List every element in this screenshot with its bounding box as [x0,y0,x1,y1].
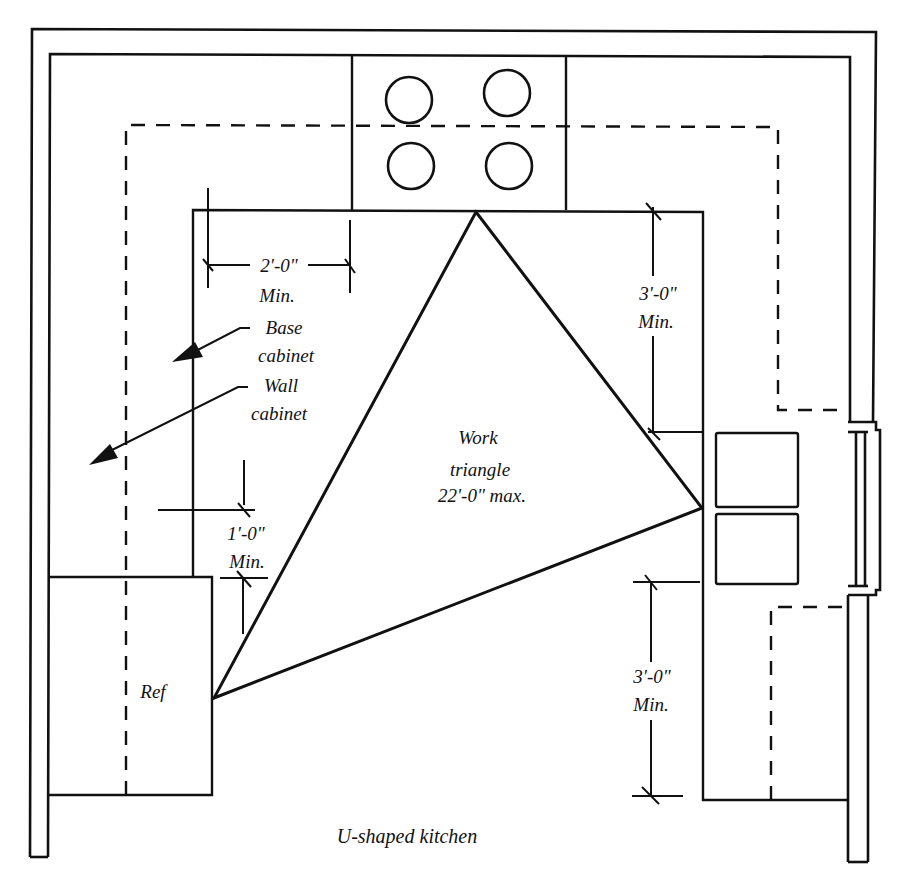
outer-wall-line [30,29,876,857]
refrigerator-label: Ref [139,681,168,702]
sink-basin-icon [716,514,798,584]
work-triangle-label-3: 22'-0" max. [438,485,526,506]
diagram-caption: U-shaped kitchen [337,825,478,848]
inner-wall-line [48,54,850,857]
dimension-sink-clearance-upper: 3'-0" Min. [637,203,703,440]
dimension-range-clearance: 2'-0" Min. [203,188,355,306]
sink-basin-icon [716,433,798,507]
dimension-qualifier: Min. [258,285,294,306]
dimension-value: 1'-0" [227,523,265,544]
dimension-value: 2'-0" [260,255,298,276]
dimension-qualifier: Min. [228,551,264,572]
u-shaped-kitchen-plan: Ref Work triangle 22'-0" max. 2'-0" Min.… [0,0,899,893]
base-cabinet-label-2: cabinet [258,345,315,366]
work-triangle-label-1: Work [458,427,498,448]
range [352,56,566,210]
burner-icon [386,77,432,123]
window [848,422,880,595]
wall-cabinet-callout: Wall cabinet [89,375,308,465]
wall-cabinet-label-2: cabinet [251,403,308,424]
wall-cabinet-label-1: Wall [264,375,298,396]
outer-walls [30,29,876,862]
refrigerator: Ref [48,577,212,795]
dimension-sink-clearance-lower: 3'-0" Min. [632,575,700,804]
burner-icon [486,143,532,189]
base-cabinet-label-1: Base [266,317,303,338]
work-triangle-label-2: triangle [450,459,510,480]
dimension-value: 3'-0" [632,666,671,687]
dimension-qualifier: Min. [637,311,673,332]
arrow-icon [89,444,118,465]
sink [716,433,798,584]
dimension-value: 3'-0" [638,283,677,304]
dimension-qualifier: Min. [632,694,668,715]
burner-icon [484,70,530,116]
arrow-icon [172,342,203,362]
burner-icon [388,143,434,189]
